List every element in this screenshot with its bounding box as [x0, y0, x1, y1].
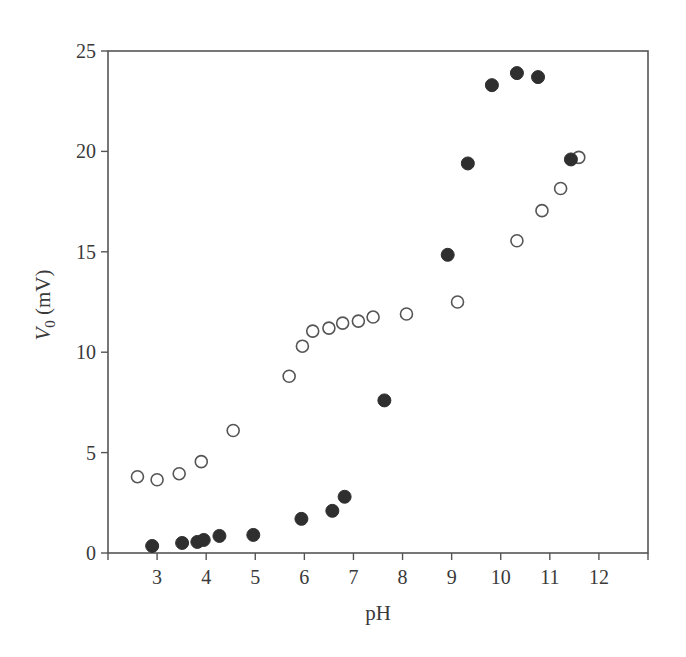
x-tick-label: 4	[201, 566, 211, 588]
filled-circle-marker	[378, 394, 391, 407]
x-tick-label: 11	[540, 566, 559, 588]
filled-circle-marker	[510, 67, 523, 80]
y-axis: 0510152025	[76, 40, 108, 564]
filled-circle-marker	[197, 533, 210, 546]
x-tick-label: 5	[250, 566, 260, 588]
open-circle-marker	[173, 468, 185, 480]
filled-circle-marker	[176, 536, 189, 549]
filled-circle-marker	[441, 248, 454, 261]
open-circle-marker	[536, 205, 548, 217]
y-tick-label: 15	[76, 241, 96, 263]
filled-circle-marker	[326, 504, 339, 517]
plot-frame	[108, 51, 648, 553]
y-axis-label: V0 (mV)	[31, 269, 58, 340]
open-circle-marker	[511, 235, 523, 247]
open-circle-marker	[555, 183, 567, 195]
open-circle-marker	[151, 474, 163, 486]
open-circle-marker	[452, 296, 464, 308]
x-tick-label: 12	[589, 566, 609, 588]
open-circle-marker	[400, 308, 412, 320]
y-tick-label: 5	[86, 442, 96, 464]
open-circle-marker	[283, 370, 295, 382]
open-circle-marker	[131, 471, 143, 483]
filled-circle-marker	[338, 490, 351, 503]
filled-circle-marker	[146, 539, 159, 552]
filled-circle-marker	[485, 79, 498, 92]
y-tick-label: 10	[76, 341, 96, 363]
filled-circle-marker	[532, 71, 545, 84]
y-tick-label: 25	[76, 40, 96, 62]
open-circle-marker	[296, 340, 308, 352]
filled-circle-marker	[461, 157, 474, 170]
series-filled-circles	[146, 67, 578, 553]
filled-circle-marker	[247, 528, 260, 541]
x-tick-label: 3	[152, 566, 162, 588]
filled-circle-marker	[564, 153, 577, 166]
open-circle-marker	[337, 317, 349, 329]
scatter-chart: 3456789101112 0510152025 pH V0 (mV)	[0, 0, 686, 657]
filled-circle-marker	[295, 512, 308, 525]
series-open-circles	[131, 151, 584, 485]
x-tick-label: 9	[447, 566, 457, 588]
x-tick-label: 8	[398, 566, 408, 588]
y-tick-label: 20	[76, 140, 96, 162]
plot-area-border	[108, 51, 648, 553]
x-tick-label: 10	[491, 566, 511, 588]
x-tick-label: 6	[299, 566, 309, 588]
y-axis-label-unit: (mV)	[31, 269, 55, 320]
x-tick-label: 7	[348, 566, 358, 588]
open-circle-marker	[195, 456, 207, 468]
x-axis: 3456789101112	[108, 553, 648, 588]
x-axis-label: pH	[365, 601, 391, 625]
open-circle-marker	[227, 425, 239, 437]
open-circle-marker	[307, 325, 319, 337]
y-axis-label-subscript: 0	[42, 320, 58, 328]
y-tick-label: 0	[86, 542, 96, 564]
filled-circle-marker	[213, 529, 226, 542]
open-circle-marker	[352, 315, 364, 327]
open-circle-marker	[323, 322, 335, 334]
open-circle-marker	[367, 311, 379, 323]
